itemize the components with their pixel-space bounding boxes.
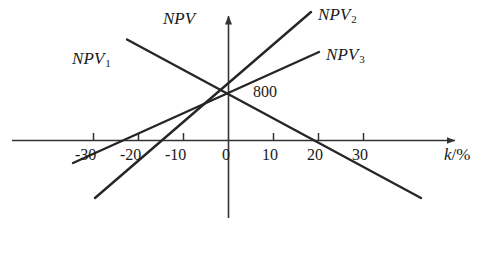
y-axis-label: NPV — [163, 10, 195, 27]
x-axis-unit: /% — [452, 145, 471, 164]
series-label-npv3: NPV3 — [326, 46, 364, 63]
series-label-npv3-subscript: 3 — [359, 53, 365, 65]
x-tick-label-pos20: 20 — [307, 147, 323, 163]
x-tick-label-zero: 0 — [222, 147, 230, 163]
x-axis-symbol: k — [444, 145, 452, 164]
series-label-npv2-text: NPV — [318, 5, 351, 24]
x-tick-label-neg20: -20 — [120, 147, 141, 163]
annotation-800: 800 — [253, 84, 277, 100]
x-tick-label-neg10: -10 — [165, 147, 186, 163]
series-label-npv1: NPV1 — [72, 50, 110, 67]
npv-profile-chart — [0, 0, 487, 254]
x-axis-label: k/% — [444, 146, 470, 163]
x-tick-label-pos30: 30 — [352, 147, 368, 163]
x-tick-label-neg30: -30 — [75, 147, 96, 163]
npv-profile-figure: NPV k/% NPV1 NPV2 NPV3 800 -30 -20 -10 0… — [0, 0, 487, 254]
series-label-npv2-subscript: 2 — [351, 13, 357, 25]
series-label-npv2: NPV2 — [318, 6, 356, 23]
series-label-npv3-text: NPV — [326, 45, 359, 64]
series-label-npv1-subscript: 1 — [105, 57, 111, 69]
x-tick-label-pos10: 10 — [262, 147, 278, 163]
series-label-npv1-text: NPV — [72, 49, 105, 68]
